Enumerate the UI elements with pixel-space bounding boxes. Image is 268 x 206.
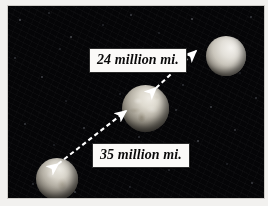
starfield-plate: 24 million mi. 35 million mi. (8, 6, 264, 198)
upper-right-planet (206, 36, 246, 76)
center-planet (122, 85, 169, 132)
planet-distance-figure: 24 million mi. 35 million mi. (0, 0, 268, 206)
lower-left-planet (36, 158, 78, 198)
distance-label-upper: 24 million mi. (89, 48, 187, 73)
lower-left-planet-surface-bands (36, 158, 78, 198)
center-planet-surface-bands (122, 85, 169, 132)
distance-label-lower: 35 million mi. (92, 143, 190, 168)
